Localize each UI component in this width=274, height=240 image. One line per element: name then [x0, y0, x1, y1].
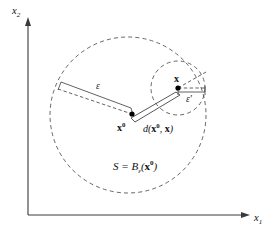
distance-segment-lower: [131, 92, 176, 118]
point-x0-label-sup: 0: [122, 121, 125, 128]
x-axis-arrowhead: [241, 212, 250, 218]
distance-label: d(x0, x): [143, 123, 173, 134]
distance-segment-cap-left: [131, 118, 135, 122]
point-x0-label: x0: [117, 122, 125, 133]
set-equals: =: [119, 160, 132, 172]
x-axis-label: x1: [254, 213, 262, 226]
point-x-label: x: [174, 74, 179, 84]
epsilon-prime-mark: ′: [190, 94, 192, 104]
epsilon-radius-dashed: [58, 89, 132, 114]
set-close-paren: ): [154, 160, 158, 172]
figure-canvas: [0, 0, 274, 240]
point-x0-marker: [129, 111, 134, 116]
y-axis-arrowhead: [25, 17, 31, 26]
set-definition-label: S = Bε(x0): [113, 160, 157, 175]
distance-segment-group: [131, 72, 206, 122]
point-x-marker: [175, 85, 180, 90]
epsilon-prime-label: ε′: [186, 95, 192, 105]
x-axis-label-sub: 1: [259, 218, 263, 226]
distance-close-paren: ): [170, 123, 173, 134]
axis-group: [25, 17, 250, 218]
y-axis-label: x2: [12, 6, 20, 19]
epsilon-label: ε: [96, 82, 100, 92]
epsilon-ball-figure: x2 x1 ε ε′ x0 x d(x0, x) S = Bε(x0): [0, 0, 274, 240]
distance-segment-upper: [135, 95, 180, 122]
y-axis-label-sub: 2: [17, 11, 21, 19]
